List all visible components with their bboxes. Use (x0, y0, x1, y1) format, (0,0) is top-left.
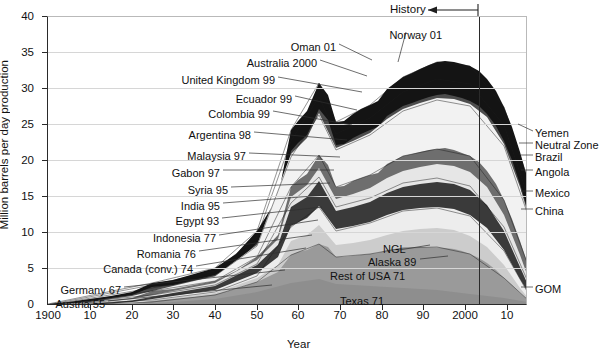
series-label-rest-of-usa: Rest of USA 71 (330, 271, 405, 282)
chart-root: Million barrels per day production 40 35… (0, 0, 610, 359)
x-tick-label: 70 (334, 310, 347, 321)
series-label-norway: Norway 01 (389, 30, 442, 41)
x-tick-mark (507, 305, 508, 310)
series-label-india: India 95 (181, 201, 220, 212)
series-label-egypt: Egypt 93 (176, 216, 219, 227)
y-tick-label: 35 (4, 47, 34, 58)
series-label-ecuador: Ecuador 99 (236, 94, 292, 105)
x-tick-label: 1900 (35, 310, 61, 321)
x-tick-label: 40 (209, 310, 222, 321)
series-label-texas: Texas 71 (340, 296, 384, 307)
series-label-argentina: Argentina 98 (189, 130, 251, 141)
x-tick-mark (173, 305, 174, 310)
x-tick-mark (298, 305, 299, 310)
y-tick-label: 10 (4, 227, 34, 238)
series-label-alaska: Alaska 89 (368, 257, 416, 268)
series-label-oman: Oman 01 (291, 42, 336, 53)
x-tick-label: 10 (501, 310, 514, 321)
series-label-mexico: Mexico (535, 188, 570, 199)
history-divider-line (479, 17, 480, 305)
x-tick-label: 20 (126, 310, 139, 321)
x-tick-mark (465, 305, 466, 310)
series-label-germany: Germany 67 (60, 285, 121, 296)
series-label-austria: Austria 55 (55, 299, 105, 310)
series-label-united-kingdom: United Kingdom 99 (181, 75, 275, 86)
series-label-colombia: Colombia 99 (208, 109, 270, 120)
series-label-gabon: Gabon 97 (172, 168, 220, 179)
gridline (48, 232, 526, 233)
x-tick-label: 50 (251, 310, 264, 321)
y-tick-label: 30 (4, 83, 34, 94)
x-tick-label: 2000 (452, 310, 478, 321)
x-tick-label: 60 (292, 310, 305, 321)
series-label-indonesia: Indonesia 77 (153, 233, 216, 244)
series-label-neutral-zone: Neutral Zone (535, 140, 599, 151)
x-tick-label: 90 (417, 310, 430, 321)
x-tick-mark (423, 305, 424, 310)
x-tick-label: 80 (376, 310, 389, 321)
y-tick-label: 40 (4, 11, 34, 22)
series-label-angola: Angola (535, 167, 569, 178)
x-tick-mark (132, 305, 133, 310)
gridline (48, 196, 526, 197)
x-tick-label: 30 (167, 310, 180, 321)
x-tick-mark (257, 305, 258, 310)
x-tick-mark (215, 305, 216, 310)
gridline (48, 52, 526, 53)
series-label-canada: Canada (conv.) 74 (103, 264, 193, 275)
history-label: History (390, 3, 426, 15)
x-tick-label: 10 (84, 310, 97, 321)
series-label-australia: Australia 2000 (247, 58, 317, 69)
gridline (48, 160, 526, 161)
series-label-syria: Syria 95 (188, 185, 228, 196)
y-tick-label: 5 (4, 263, 34, 274)
series-label-brazil: Brazil (535, 152, 563, 163)
series-label-gom: GOM (535, 284, 561, 295)
gridline (48, 88, 526, 89)
x-axis-title: Year (287, 338, 310, 350)
series-label-yemen: Yemen (535, 128, 569, 139)
series-label-ngl: NGL (383, 244, 406, 255)
gridline (48, 124, 526, 125)
y-tick-label: 0 (4, 299, 34, 310)
y-tick-label: 25 (4, 119, 34, 130)
series-label-china: China (535, 206, 564, 217)
y-tick-label: 20 (4, 155, 34, 166)
series-label-malaysia: Malaysia 97 (187, 151, 246, 162)
series-label-romania: Romania 76 (137, 249, 196, 260)
y-tick-label: 15 (4, 191, 34, 202)
